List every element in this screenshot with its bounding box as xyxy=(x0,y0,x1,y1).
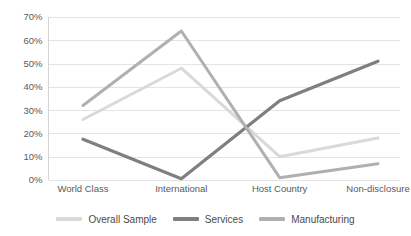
series-line-overall-sample xyxy=(83,68,378,156)
x-tick-labels: World ClassInternationalHost CountryNon-… xyxy=(57,183,409,194)
y-tick-label: 40% xyxy=(23,81,43,92)
legend-entry-services[interactable]: Services xyxy=(173,214,243,225)
y-tick-label: 0% xyxy=(29,174,43,185)
x-tick-label: World Class xyxy=(57,183,108,194)
legend-label: Overall Sample xyxy=(88,214,156,225)
x-tick-label: Non-disclosure xyxy=(346,183,409,194)
chart-plot-area: 0%10%20%30%40%50%60%70% World ClassInter… xyxy=(0,0,411,236)
series-lines xyxy=(83,31,378,179)
y-tick-label: 30% xyxy=(23,105,43,116)
y-tick-labels: 0%10%20%30%40%50%60%70% xyxy=(23,11,43,185)
legend-swatch-icon xyxy=(259,217,285,221)
legend-label: Services xyxy=(205,214,243,225)
y-tick-label: 50% xyxy=(23,58,43,69)
y-tick-label: 70% xyxy=(23,11,43,22)
legend-swatch-icon xyxy=(173,217,199,221)
legend-entry-manufacturing[interactable]: Manufacturing xyxy=(259,214,354,225)
x-tick-label: International xyxy=(155,183,207,194)
y-tick-label: 60% xyxy=(23,35,43,46)
y-tick-label: 20% xyxy=(23,128,43,139)
legend-label: Manufacturing xyxy=(291,214,354,225)
y-tick-label: 10% xyxy=(23,151,43,162)
x-tick-label: Host Country xyxy=(252,183,308,194)
series-line-services xyxy=(83,61,378,179)
line-chart: 0%10%20%30%40%50%60%70% World ClassInter… xyxy=(0,0,411,236)
legend-entry-overall-sample[interactable]: Overall Sample xyxy=(56,214,156,225)
legend-swatch-icon xyxy=(56,217,82,221)
y-gridlines xyxy=(49,18,401,181)
chart-legend: Overall SampleServicesManufacturing xyxy=(0,208,411,230)
